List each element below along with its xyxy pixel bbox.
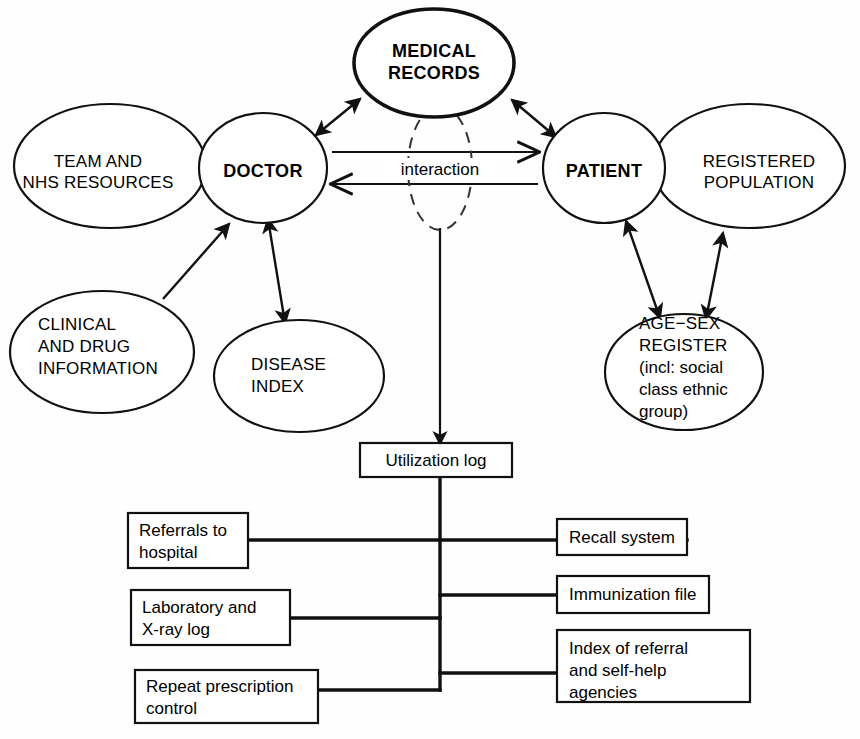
node-patient[interactable]: PATIENT bbox=[543, 113, 665, 223]
node-clinical-drug-information[interactable]: CLINICAL AND DRUG INFORMATION bbox=[10, 291, 194, 413]
index-referral-label-line2: and self-help bbox=[569, 661, 666, 680]
medical-records-label-line2: RECORDS bbox=[388, 63, 480, 83]
box-recall-system[interactable]: Recall system bbox=[557, 519, 687, 555]
edge-doctor-medical-records bbox=[316, 99, 360, 135]
repeat-prescription-label-line2: control bbox=[146, 699, 197, 718]
age-sex-label-line5: group) bbox=[639, 402, 688, 421]
age-sex-label-line4: class ethnic bbox=[639, 380, 728, 399]
edge-clinical-drug-to-doctor bbox=[163, 224, 229, 299]
patient-label: PATIENT bbox=[566, 161, 642, 181]
clinical-drug-label-line1: CLINICAL bbox=[38, 315, 116, 334]
referrals-label-line1: Referrals to bbox=[139, 521, 227, 540]
clinical-drug-label-line3: INFORMATION bbox=[38, 359, 158, 378]
interaction-label-group: interaction bbox=[382, 158, 498, 180]
recall-system-label: Recall system bbox=[569, 528, 675, 547]
interaction-label: interaction bbox=[401, 160, 479, 179]
immunization-file-label: Immunization file bbox=[569, 585, 697, 604]
edge-registered-population-age-sex-register bbox=[706, 233, 723, 319]
laboratory-label-line2: X-ray log bbox=[142, 620, 210, 639]
repeat-prescription-label-line1: Repeat prescription bbox=[146, 677, 293, 696]
diagram-svg: TEAM AND NHS RESOURCES DOCTOR MEDICAL RE… bbox=[0, 0, 860, 739]
age-sex-label-line2: REGISTER bbox=[639, 336, 728, 355]
referrals-label-line2: hospital bbox=[139, 543, 198, 562]
disease-index-label-line1: DISEASE bbox=[251, 355, 326, 374]
node-disease-index[interactable]: DISEASE INDEX bbox=[214, 320, 384, 432]
edge-patient-medical-records bbox=[512, 100, 556, 137]
index-referral-label-line3: agencies bbox=[569, 683, 637, 702]
node-team-nhs-resources[interactable]: TEAM AND NHS RESOURCES bbox=[14, 104, 206, 228]
node-medical-records[interactable]: MEDICAL RECORDS bbox=[354, 9, 514, 117]
box-referrals-to-hospital[interactable]: Referrals to hospital bbox=[128, 513, 248, 568]
clinical-drug-label-line2: AND DRUG bbox=[38, 337, 130, 356]
edge-patient-age-sex-register bbox=[626, 221, 660, 318]
box-laboratory-xray-log[interactable]: Laboratory and X-ray log bbox=[131, 590, 290, 645]
age-sex-label-line3: (incl: social bbox=[639, 358, 723, 377]
utilization-log-label: Utilization log bbox=[385, 451, 486, 470]
laboratory-label-line1: Laboratory and bbox=[142, 598, 256, 617]
team-nhs-label-line2: NHS RESOURCES bbox=[23, 173, 174, 192]
medical-records-label-line1: MEDICAL bbox=[392, 41, 476, 61]
index-referral-label-line1: Index of referral bbox=[569, 639, 688, 658]
doctor-label: DOCTOR bbox=[223, 161, 302, 181]
box-index-of-referral-agencies[interactable]: Index of referral and self-help agencies bbox=[557, 630, 750, 702]
team-nhs-label-line1: TEAM AND bbox=[54, 152, 143, 171]
age-sex-label-line1: AGE−SEX bbox=[639, 314, 720, 333]
registered-population-label-line2: POPULATION bbox=[704, 173, 814, 192]
box-immunization-file[interactable]: Immunization file bbox=[557, 576, 709, 613]
node-doctor[interactable]: DOCTOR bbox=[199, 113, 327, 223]
node-age-sex-register[interactable]: AGE−SEX REGISTER (incl: social class eth… bbox=[605, 314, 763, 430]
disease-index-label-line2: INDEX bbox=[251, 377, 304, 396]
edge-doctor-disease-index bbox=[268, 219, 285, 323]
node-registered-population[interactable]: REGISTERED POPULATION bbox=[653, 104, 845, 228]
box-repeat-prescription-control[interactable]: Repeat prescription control bbox=[135, 670, 318, 723]
diagram-canvas: TEAM AND NHS RESOURCES DOCTOR MEDICAL RE… bbox=[0, 0, 860, 739]
box-utilization-log[interactable]: Utilization log bbox=[360, 443, 512, 477]
registered-population-label-line1: REGISTERED bbox=[703, 152, 816, 171]
